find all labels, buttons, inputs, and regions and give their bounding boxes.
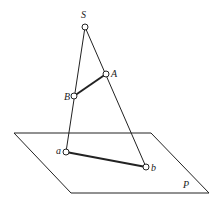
point-b <box>143 164 149 170</box>
projection-ray-sb <box>85 27 146 167</box>
point-A <box>103 71 109 77</box>
plane-p <box>14 133 209 193</box>
projection-diagram: S A B a b P <box>0 0 219 211</box>
point-B <box>71 93 77 99</box>
label-plane-p: P <box>182 179 189 190</box>
label-B: B <box>64 91 70 102</box>
segment-ab <box>74 74 106 96</box>
label-s: S <box>81 9 86 20</box>
label-b: b <box>151 162 156 173</box>
label-a: a <box>56 145 61 156</box>
label-A: A <box>110 68 118 79</box>
point-a <box>63 149 69 155</box>
point-s <box>82 24 88 30</box>
segment-ab-projection <box>66 152 146 167</box>
